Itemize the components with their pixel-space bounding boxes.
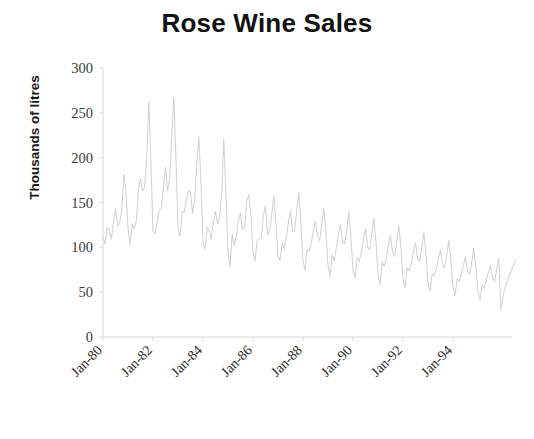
x-axis-tick-label: Jan-88	[268, 343, 305, 380]
x-axis-tick-label: Jan-80	[68, 343, 105, 380]
y-axis-tick-label: 300	[71, 60, 93, 76]
y-axis-tick-label: 150	[71, 195, 93, 211]
y-axis-tick-label: 0	[86, 329, 93, 345]
x-axis-tick-label: Jan-84	[168, 343, 205, 380]
y-axis-tick-group: 050100150200250300	[71, 60, 103, 345]
x-axis-tick-group: Jan-80Jan-82Jan-84Jan-86Jan-88Jan-90Jan-…	[68, 337, 455, 380]
y-axis-tick-label: 250	[71, 105, 93, 121]
data-series-line	[103, 97, 515, 310]
x-axis-tick-label: Jan-86	[218, 343, 255, 380]
x-axis-tick-label: Jan-82	[118, 343, 155, 380]
x-axis-tick-label: Jan-92	[368, 343, 405, 380]
chart-figure: Rose Wine Sales Thousands of litres 0501…	[0, 0, 534, 439]
plot-area: 050100150200250300 Jan-80Jan-82Jan-84Jan…	[0, 0, 534, 439]
y-axis-tick-label: 100	[71, 239, 93, 255]
y-axis-tick-label: 200	[71, 150, 93, 166]
x-axis-tick-label: Jan-90	[318, 343, 355, 380]
y-axis-tick-label: 50	[79, 284, 94, 300]
x-axis-tick-label: Jan-94	[418, 343, 455, 380]
